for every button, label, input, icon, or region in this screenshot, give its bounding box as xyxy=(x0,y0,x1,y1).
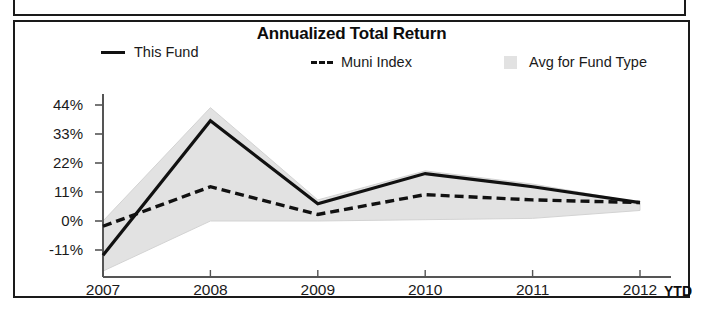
x-axis-tick-label: 2011 xyxy=(516,281,549,299)
y-axis-tick-label: -11% xyxy=(21,242,83,257)
plot-area: 44%33%22%11%0%-11% YTD 20072008200920102… xyxy=(15,22,692,300)
y-axis-tick-label: 22% xyxy=(21,155,83,170)
y-axis-tick-label: 33% xyxy=(21,126,83,141)
x-axis-tick-label: 2009 xyxy=(301,281,335,299)
y-axis-tick-label: 11% xyxy=(21,184,83,199)
y-axis-tick-label: 44% xyxy=(21,97,83,112)
scan-artifact-strip xyxy=(0,305,703,322)
x-axis-tick-label: 2012 xyxy=(623,281,657,299)
y-axis-tick-label: 0% xyxy=(21,213,83,228)
y-axis-tick-labels: 44%33%22%11%0%-11% xyxy=(15,22,83,300)
x-axis-tick-label: 2008 xyxy=(193,281,227,299)
x-axis-tick-label: 2010 xyxy=(408,281,442,299)
x-axis-tick-labels: YTD 200720082009201020112012 xyxy=(15,274,692,300)
upper-panel-fragment xyxy=(13,0,686,16)
chart-plot-svg xyxy=(15,22,692,300)
x-axis-tick-label: 2007 xyxy=(86,281,120,299)
x-axis-ytd-note: YTD xyxy=(664,283,692,299)
annualized-total-return-chart-panel: Annualized Total Return This Fund Muni I… xyxy=(13,20,690,298)
